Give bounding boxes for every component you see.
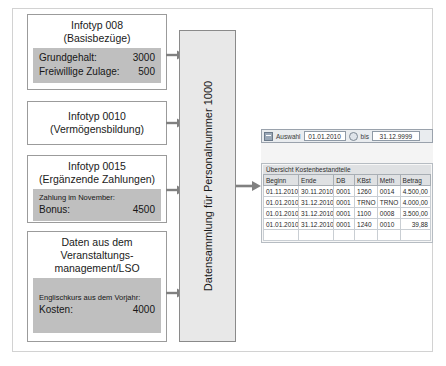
infobox-0015-title: Infotyp 0015 (Ergänzende Zahlungen) [28, 156, 166, 189]
cell-betrag: 3.500,00 [400, 208, 430, 219]
cell-beginn: 01.01.2010 [264, 197, 299, 208]
sap-date-to-input[interactable]: 31.12.9999 [372, 131, 420, 141]
cell-meth: TRNO [377, 197, 400, 208]
infobox-008-row-2: Freiwillige Zulage: 500 [39, 65, 155, 79]
cell-db: 0001 [334, 186, 355, 197]
infobox-0015-note: Zahlung im November: [39, 192, 155, 203]
cell-betrag: 4.000,00 [400, 197, 430, 208]
infobox-veranstaltungsmanagement-lso: Daten aus dem Veranstaltungs- management… [27, 231, 167, 342]
infobox-008-title: Infotyp 008 (Basisbezüge) [28, 15, 166, 48]
sap-col-betrag[interactable]: Betrag [400, 175, 430, 186]
infobox-lso-title: Daten aus dem Veranstaltungs- management… [28, 232, 166, 278]
cell-empty [264, 230, 299, 241]
cell-kbst: 1100 [355, 208, 378, 219]
sap-col-ende[interactable]: Ende [299, 175, 334, 186]
cell-ende: 30.11.2010 [299, 186, 334, 197]
table-row[interactable]: 01.01.2010 31.12.2010 0001 1240 0010 39,… [264, 219, 431, 230]
cell-meth: 0008 [377, 208, 400, 219]
cell-db: 0001 [334, 208, 355, 219]
cell-meth: 0010 [377, 219, 400, 230]
cell-beginn: 01.11.2010 [264, 186, 299, 197]
cell-empty [334, 230, 355, 241]
cell-kbst: 1240 [355, 219, 378, 230]
sap-bis-label: bis [361, 133, 369, 140]
infobox-0010-title: Infotyp 0010 (Vermögensbildung) [28, 102, 166, 139]
infobox-infotyp-0015: Infotyp 0015 (Ergänzende Zahlungen) Zahl… [27, 155, 167, 223]
cell-db: 0001 [334, 197, 355, 208]
infobox-0015-row-1-label: Bonus: [39, 203, 70, 217]
cell-empty [400, 230, 430, 241]
cell-beginn: 01.01.2010 [264, 208, 299, 219]
matchcode-icon[interactable] [349, 132, 358, 141]
cell-betrag: 39,88 [400, 219, 430, 230]
cell-beginn: 01.01.2010 [264, 219, 299, 230]
cell-betrag: 4.500,00 [400, 186, 430, 197]
central-data-collection-bar: Datensammlung für Personalnummer 1000 [179, 30, 236, 342]
table-row[interactable]: 01.01.2010 31.12.2010 0001 TRNO TRNO 4.0… [264, 197, 431, 208]
sap-col-db[interactable]: DB [334, 175, 355, 186]
infobox-008-row-1-value: 3000 [133, 51, 155, 65]
cell-db: 0001 [334, 219, 355, 230]
cell-empty [299, 230, 334, 241]
infobox-lso-body: Englischkurs aus dem Vorjahr: Kosten: 40… [33, 278, 161, 333]
cell-ende: 31.12.2010 [299, 219, 334, 230]
sap-col-meth[interactable]: Meth [377, 175, 400, 186]
infobox-infotyp-008: Infotyp 008 (Basisbezüge) Grundgehalt: 3… [27, 14, 167, 90]
infobox-infotyp-0010: Infotyp 0010 (Vermögensbildung) [27, 101, 167, 145]
sap-cost-components-table: Übersicht Kostenbestandteile Beginn Ende… [261, 163, 433, 243]
cell-meth: 0014 [377, 186, 400, 197]
cell-kbst: TRNO [355, 197, 378, 208]
central-bar-label: Datensammlung für Personalnummer 1000 [202, 81, 214, 291]
infobox-0015-row-1: Bonus: 4500 [39, 203, 155, 217]
infobox-0015-row-1-value: 4500 [133, 203, 155, 217]
sap-selection-toolbar: Auswahl 01.01.2010 bis 31.12.9999 [261, 129, 433, 143]
infobox-lso-note: Englischkurs aus dem Vorjahr: [39, 292, 155, 303]
arrow-bar-to-sap-table [236, 179, 262, 193]
cell-empty [377, 230, 400, 241]
sap-col-kbst[interactable]: KBst [355, 175, 378, 186]
infobox-lso-row-1-label: Kosten: [39, 303, 73, 317]
sap-col-beginn[interactable]: Beginn [264, 175, 299, 186]
sap-grid: Beginn Ende DB KBst Meth Betrag 01.11.20… [263, 174, 431, 241]
sap-grid-header-row: Beginn Ende DB KBst Meth Betrag [264, 175, 431, 186]
infobox-lso-row-1: Kosten: 4000 [39, 303, 155, 317]
infobox-0015-body: Zahlung im November: Bonus: 4500 [33, 189, 161, 221]
cell-ende: 31.12.2010 [299, 208, 334, 219]
sap-auswahl-label: Auswahl [276, 133, 301, 140]
sap-screenshot-panel: Auswahl 01.01.2010 bis 31.12.9999 Übersi… [261, 129, 433, 229]
table-row[interactable]: 01.01.2010 31.12.2010 0001 1100 0008 3.5… [264, 208, 431, 219]
cell-kbst: 1260 [355, 186, 378, 197]
diagram-canvas: Infotyp 008 (Basisbezüge) Grundgehalt: 3… [0, 0, 446, 366]
infobox-008-row-2-value: 500 [138, 65, 155, 79]
sap-date-from-input[interactable]: 01.01.2010 [304, 131, 346, 141]
selection-icon [264, 132, 273, 141]
infobox-lso-row-1-value: 4000 [133, 303, 155, 317]
infobox-008-row-1: Grundgehalt: 3000 [39, 51, 155, 65]
table-row-empty[interactable] [264, 230, 431, 241]
infobox-008-body: Grundgehalt: 3000 Freiwillige Zulage: 50… [33, 48, 161, 83]
cell-ende: 31.12.2010 [299, 197, 334, 208]
infobox-008-row-2-label: Freiwillige Zulage: [39, 65, 120, 79]
table-row[interactable]: 01.11.2010 30.11.2010 0001 1260 0014 4.5… [264, 186, 431, 197]
infobox-008-row-1-label: Grundgehalt: [39, 51, 97, 65]
cell-empty [355, 230, 378, 241]
sap-table-title: Übersicht Kostenbestandteile [263, 165, 431, 174]
